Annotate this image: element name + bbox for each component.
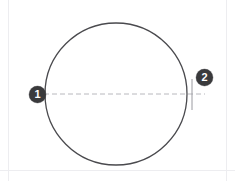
diagram-canvas: 1 2 [0,0,235,181]
callout-badge-1[interactable]: 1 [29,86,46,103]
callout-badge-2[interactable]: 2 [196,69,213,86]
